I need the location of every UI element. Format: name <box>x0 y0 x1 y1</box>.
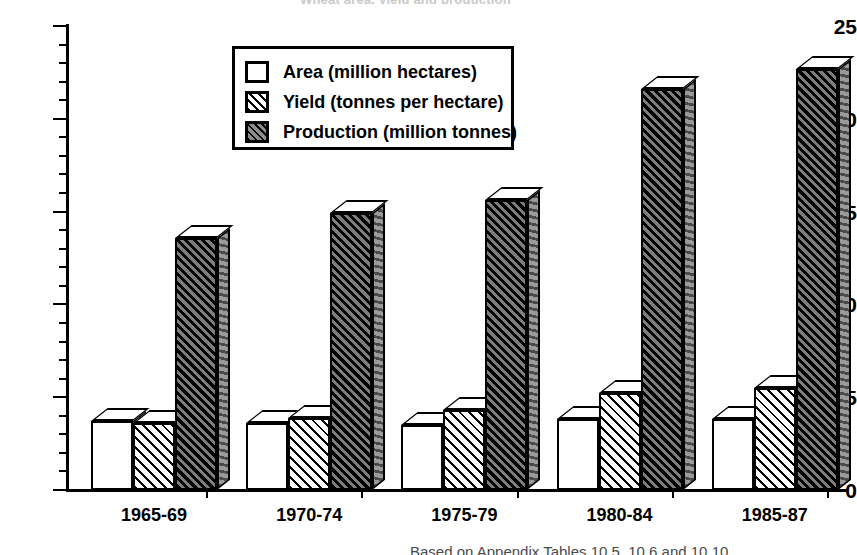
diagonal-hatch-swatch <box>245 91 269 113</box>
y-axis-major-tick <box>53 118 69 120</box>
bar-front-face <box>641 89 683 490</box>
bar-front-face <box>175 238 217 490</box>
bar-1985-87-area <box>712 406 754 490</box>
y-axis-minor-tick <box>59 99 69 101</box>
x-axis-tick <box>672 489 674 498</box>
legend-item-label: Area (million hectares) <box>283 62 477 83</box>
bar-side-face <box>527 190 540 490</box>
y-axis-minor-tick <box>59 81 69 83</box>
y-axis-minor-tick <box>59 452 69 454</box>
y-axis-minor-tick <box>59 285 69 287</box>
bar-front-face <box>91 421 133 490</box>
bar-1975-79-area <box>401 412 443 490</box>
bar-1980-84-yield <box>599 380 641 490</box>
y-axis-minor-tick <box>59 341 69 343</box>
bar-front-face <box>796 69 838 490</box>
x-axis-tick-label: 1965-69 <box>84 505 224 526</box>
bar-front-face <box>599 393 641 490</box>
y-axis-minor-tick <box>59 415 69 417</box>
y-axis-major-tick <box>53 489 69 491</box>
figure-caption-cropped: Based on Appendix Tables 10.5, 10.6 and … <box>410 543 857 555</box>
bar-front-face <box>133 423 175 490</box>
bar-front-face <box>443 410 485 490</box>
y-axis-minor-tick <box>59 192 69 194</box>
y-axis-minor-tick <box>59 248 69 250</box>
bar-1970-74-production <box>330 200 372 490</box>
bar-front-face <box>288 418 330 490</box>
bar-front-face <box>401 425 443 490</box>
bar-1965-69-area <box>91 408 133 490</box>
x-axis-tick-label: 1980-84 <box>550 505 690 526</box>
y-axis-minor-tick <box>59 44 69 46</box>
bar-side-face <box>683 79 696 490</box>
bar-front-face <box>754 388 796 490</box>
legend-item-label: Production (million tonnes) <box>283 122 517 143</box>
bar-1985-87-yield <box>754 375 796 490</box>
bar-side-face <box>838 59 851 490</box>
bar-front-face <box>712 419 754 490</box>
bar-side-face <box>217 227 230 490</box>
y-axis-minor-tick <box>59 433 69 435</box>
y-axis-minor-tick <box>59 266 69 268</box>
bar-1975-79-yield <box>443 397 485 490</box>
y-axis-major-tick <box>53 25 69 27</box>
y-axis-major-tick <box>53 396 69 398</box>
legend-item-label: Yield (tonnes per hectare) <box>283 92 503 113</box>
y-axis-minor-tick <box>59 470 69 472</box>
legend-item: Yield (tonnes per hectare) <box>245 88 511 116</box>
x-axis-tick <box>361 489 363 498</box>
bar-1980-84-production <box>641 76 683 490</box>
bar-1985-87-production <box>796 56 838 490</box>
bar-front-face <box>557 419 599 490</box>
bar-1965-69-production <box>175 225 217 490</box>
y-axis-minor-tick <box>59 359 69 361</box>
y-axis-major-tick <box>53 211 69 213</box>
legend-item: Production (million tonnes) <box>245 118 511 146</box>
bar-front-face <box>330 213 372 490</box>
x-axis-tick <box>827 489 829 498</box>
y-axis-minor-tick <box>59 378 69 380</box>
chart-legend: Area (million hectares)Yield (tonnes per… <box>232 46 514 150</box>
legend-item: Area (million hectares) <box>245 58 511 86</box>
bar-1980-84-area <box>557 406 599 490</box>
x-axis-tick-label: 1975-79 <box>394 505 534 526</box>
bar-1965-69-yield <box>133 410 175 490</box>
y-axis-minor-tick <box>59 155 69 157</box>
dense-hatch-swatch <box>245 121 269 143</box>
y-axis-minor-tick <box>59 322 69 324</box>
bar-front-face <box>485 200 527 490</box>
bar-1970-74-yield <box>288 405 330 490</box>
open-square-swatch <box>245 61 269 83</box>
x-axis-tick-label: 1985-87 <box>705 505 845 526</box>
y-axis-minor-tick <box>59 136 69 138</box>
x-axis-tick-label: 1970-74 <box>239 505 379 526</box>
x-axis-tick <box>517 489 519 498</box>
y-axis-minor-tick <box>59 229 69 231</box>
bar-side-face <box>372 203 385 490</box>
x-axis-tick <box>206 489 208 498</box>
bar-1970-74-area <box>246 410 288 490</box>
bar-1975-79-production <box>485 187 527 490</box>
bar-front-face <box>246 423 288 490</box>
y-axis-line <box>66 24 69 492</box>
y-axis-major-tick <box>53 303 69 305</box>
y-axis-minor-tick <box>59 173 69 175</box>
y-axis-tick-label: 25 <box>815 16 857 37</box>
y-axis-minor-tick <box>59 62 69 64</box>
figure-canvas: Wheat area, yield and production 0510152… <box>0 0 857 555</box>
